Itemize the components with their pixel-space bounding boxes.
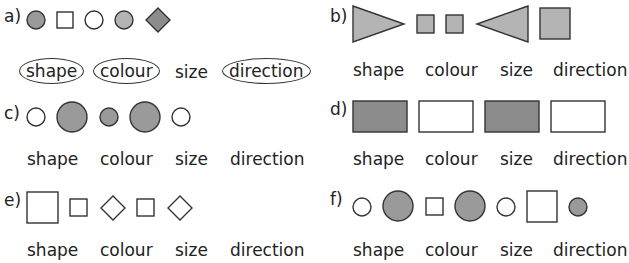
- square-icon: [27, 192, 58, 223]
- sequence-a: [27, 8, 170, 32]
- circle-icon: [172, 108, 190, 126]
- sequence-e: [27, 192, 192, 223]
- sequence-d: [353, 101, 605, 132]
- diamond-icon: [168, 196, 192, 220]
- question-label-a: a): [4, 6, 21, 26]
- square-icon: [540, 8, 570, 39]
- circle-icon: [497, 198, 515, 216]
- triangle-left-icon: [477, 6, 528, 42]
- question-label-f: f): [330, 189, 343, 209]
- option-shape-c[interactable]: shape: [27, 149, 78, 169]
- square-icon: [417, 15, 434, 33]
- option-size-e[interactable]: size: [175, 240, 208, 260]
- circle-icon: [130, 102, 160, 132]
- option-shape-d[interactable]: shape: [353, 149, 404, 169]
- rectangle-icon: [419, 101, 473, 132]
- option-colour-f[interactable]: colour: [425, 240, 478, 260]
- option-direction-f[interactable]: direction: [553, 240, 628, 260]
- diamond-icon: [101, 196, 125, 220]
- circle-icon: [27, 11, 45, 29]
- option-size-b[interactable]: size: [500, 60, 533, 80]
- circle-icon: [569, 198, 587, 216]
- circle-icon: [115, 11, 133, 29]
- circle-icon: [455, 191, 485, 221]
- square-icon: [527, 191, 557, 222]
- circle-icon: [85, 11, 103, 29]
- option-direction-c[interactable]: direction: [230, 149, 305, 169]
- question-label-b: b): [330, 6, 347, 26]
- question-label-e: e): [4, 190, 21, 210]
- option-colour-e[interactable]: colour: [100, 240, 153, 260]
- circle-icon: [383, 191, 413, 221]
- option-size-f[interactable]: size: [500, 240, 533, 260]
- diamond-icon: [146, 8, 170, 32]
- circle-icon: [100, 108, 118, 126]
- shape-sequences: [0, 0, 629, 263]
- option-size-d[interactable]: size: [500, 149, 533, 169]
- rectangle-icon: [551, 101, 605, 132]
- sequence-b: [353, 6, 570, 42]
- option-direction-e[interactable]: direction: [230, 240, 305, 260]
- option-size-a[interactable]: size: [175, 62, 208, 82]
- sequence-c: [27, 102, 190, 132]
- rectangle-icon: [353, 101, 407, 132]
- option-shape-b[interactable]: shape: [353, 60, 404, 80]
- option-shape-a[interactable]: shape: [19, 58, 84, 84]
- option-direction-d[interactable]: direction: [553, 149, 628, 169]
- circle-icon: [57, 102, 87, 132]
- option-direction-b[interactable]: direction: [553, 60, 628, 80]
- option-colour-a[interactable]: colour: [93, 58, 160, 84]
- option-colour-b[interactable]: colour: [425, 60, 478, 80]
- option-size-c[interactable]: size: [175, 149, 208, 169]
- question-label-d: d): [330, 99, 347, 119]
- circle-icon: [27, 108, 45, 126]
- square-icon: [137, 199, 154, 216]
- option-shape-e[interactable]: shape: [27, 240, 78, 260]
- triangle-right-icon: [353, 6, 404, 42]
- sequence-f: [353, 191, 587, 222]
- circle-icon: [353, 198, 371, 216]
- option-shape-f[interactable]: shape: [353, 240, 404, 260]
- square-icon: [426, 198, 443, 215]
- square-icon: [57, 12, 73, 28]
- question-label-c: c): [4, 103, 20, 123]
- square-icon: [70, 199, 87, 216]
- option-direction-a[interactable]: direction: [222, 58, 311, 84]
- option-colour-c[interactable]: colour: [100, 149, 153, 169]
- option-colour-d[interactable]: colour: [425, 149, 478, 169]
- rectangle-icon: [485, 101, 539, 132]
- square-icon: [446, 15, 463, 33]
